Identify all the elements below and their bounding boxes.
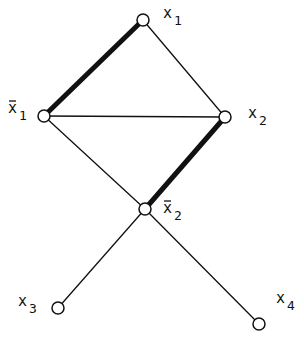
- nodes: [38, 14, 265, 330]
- label-subscript-x4: 4: [287, 298, 295, 313]
- label-subscript-nx1: 1: [19, 108, 27, 123]
- edge-nx2-x4: [145, 209, 259, 324]
- label-subscript-nx2: 2: [174, 208, 182, 223]
- node-x3: [52, 302, 64, 314]
- bold-edge-x1-nx1: [44, 20, 143, 116]
- label-nx1: x: [8, 99, 17, 117]
- label-subscript-x3: 3: [29, 301, 37, 316]
- bold-edge-x2-nx2: [145, 117, 225, 209]
- label-subscript-x1: 1: [174, 13, 182, 28]
- edges: [44, 20, 259, 324]
- node-nx2: [139, 203, 151, 215]
- edge-x1-x2: [143, 20, 225, 117]
- node-x1: [137, 14, 149, 26]
- label-x1: x: [163, 4, 172, 22]
- label-x2: x: [248, 104, 257, 122]
- node-nx1: [38, 110, 50, 122]
- node-x2: [219, 111, 231, 123]
- graph-diagram: x1x1x2x2x3x4: [0, 0, 304, 343]
- labels: x1x1x2x2x3x4: [8, 4, 295, 316]
- label-subscript-x2: 2: [259, 113, 267, 128]
- edge-nx1-nx2: [44, 116, 145, 209]
- node-x4: [253, 318, 265, 330]
- label-x3: x: [18, 292, 27, 310]
- label-nx2: x: [163, 199, 172, 217]
- edge-nx1-x2: [44, 116, 225, 117]
- label-x4: x: [276, 289, 285, 307]
- edge-nx2-x3: [58, 209, 145, 308]
